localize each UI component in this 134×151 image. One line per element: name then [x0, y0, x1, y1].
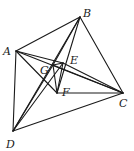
segment-AD [13, 51, 16, 131]
segment-AF [16, 51, 57, 93]
segment-BC [80, 17, 123, 93]
labels-group: A B C D E F G [2, 7, 128, 151]
label-D: D [5, 138, 15, 151]
label-B: B [82, 7, 91, 20]
geometry-figure: A B C D E F G [0, 0, 134, 151]
label-C: C [119, 97, 128, 110]
segments-group [13, 17, 123, 131]
label-F: F [61, 86, 70, 99]
label-E: E [69, 54, 78, 67]
label-A: A [2, 45, 11, 58]
label-G: G [40, 64, 49, 77]
